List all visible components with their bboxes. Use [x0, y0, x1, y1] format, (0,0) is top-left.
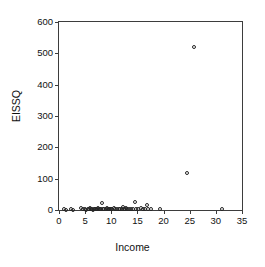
- y-tick-label: 200: [37, 142, 53, 152]
- y-tick-label: 0: [48, 205, 53, 215]
- data-point-marker: [71, 208, 75, 212]
- x-tick-label: 20: [158, 216, 169, 226]
- x-tick-mark: [216, 210, 217, 214]
- data-point-marker: [64, 208, 68, 212]
- x-tick-label: 15: [132, 216, 143, 226]
- x-tick-label: 0: [56, 216, 61, 226]
- x-tick-mark: [190, 210, 191, 214]
- y-tick-label: 300: [37, 111, 53, 121]
- x-tick-label: 30: [211, 216, 222, 226]
- data-point-marker: [158, 207, 162, 211]
- x-axis-title: Income: [0, 241, 265, 253]
- data-points-layer: [59, 22, 242, 210]
- x-tick-label: 35: [237, 216, 248, 226]
- y-tick-label: 100: [37, 174, 53, 184]
- data-point-marker: [100, 201, 104, 205]
- x-tick-label: 25: [184, 216, 195, 226]
- x-tick-label: 5: [82, 216, 87, 226]
- y-tick-label: 500: [37, 48, 53, 58]
- y-tick-label: 400: [37, 80, 53, 90]
- data-point-marker: [149, 207, 153, 211]
- data-point-marker: [185, 171, 189, 175]
- plot-frame: 0100200300400500600 05101520253035: [58, 21, 243, 211]
- y-axis-title-container: EISSQ: [6, 0, 26, 211]
- x-tick-mark: [59, 210, 60, 214]
- scatter-plot-figure: EISSQ 0100200300400500600 05101520253035…: [0, 0, 265, 267]
- x-tick-mark: [242, 210, 243, 214]
- y-tick-label: 600: [37, 17, 53, 27]
- data-point-marker: [133, 200, 137, 204]
- x-tick-label: 10: [106, 216, 117, 226]
- x-tick-mark: [164, 210, 165, 214]
- data-point-marker: [192, 45, 196, 49]
- data-point-marker: [220, 207, 224, 211]
- y-axis-title: EISSQ: [10, 89, 22, 121]
